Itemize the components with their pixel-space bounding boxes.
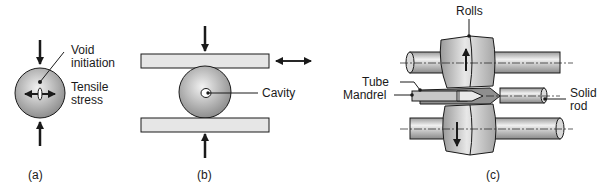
lower-roll <box>443 104 496 155</box>
tube-leader <box>400 82 420 90</box>
label-void-initiation: Void initiation <box>71 44 115 70</box>
caption-a: (a) <box>28 168 43 182</box>
label-tensile-stress: Tensile stress <box>71 81 108 107</box>
label-mandrel: Mandrel <box>343 89 386 102</box>
panel-c <box>394 19 573 155</box>
caption-b: (b) <box>197 168 212 182</box>
void-icon <box>38 88 42 100</box>
label-rolls: Rolls <box>456 5 483 18</box>
label-cavity: Cavity <box>262 87 295 100</box>
solid-rod <box>500 88 544 103</box>
label-solid-rod: Solid rod <box>570 87 597 113</box>
upper-roll <box>440 36 495 88</box>
caption-c: (c) <box>486 168 500 182</box>
panel-a <box>15 40 65 146</box>
bottom-die <box>141 118 269 132</box>
